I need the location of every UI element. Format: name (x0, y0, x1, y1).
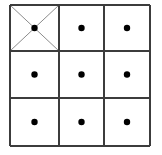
cell-dot-marker (31, 71, 37, 77)
cell-dot-marker (124, 71, 130, 77)
cell-dot-marker (78, 25, 84, 31)
grid-figure (0, 0, 162, 155)
grid-canvas (0, 0, 162, 155)
cell-dot-marker (31, 25, 37, 31)
cell-dot-marker (78, 119, 84, 125)
cell-dot-marker (124, 119, 130, 125)
cell-dot-marker (78, 71, 84, 77)
cell-dot-marker (124, 25, 130, 31)
cell-dot-marker (31, 119, 37, 125)
